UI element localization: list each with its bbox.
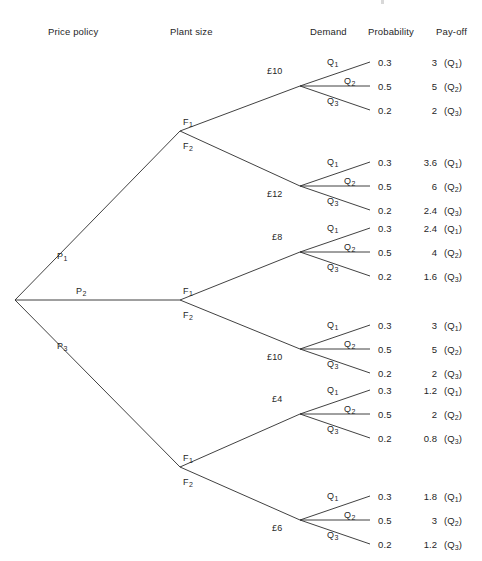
plant-branch-label-4: F2 [183, 310, 193, 321]
payoff-value: 0.8 [413, 433, 437, 444]
payoff-row-4-1: 3(Q1) [413, 320, 462, 332]
probability-value-3-2: 0.5 [378, 247, 392, 258]
plant-branch-label-2: F2 [183, 141, 193, 152]
plant-branch-line-1 [180, 86, 300, 131]
plant-branch-line-4 [180, 300, 300, 349]
probability-value-6-3: 0.2 [378, 539, 392, 550]
demand-label-4-2: Q2 [344, 339, 356, 350]
payoff-value: 2 [413, 105, 437, 116]
payoff-demand-ref: (Q2) [437, 409, 462, 421]
payoff-demand-ref: (Q3) [437, 105, 462, 117]
demand-label-6-1: Q1 [327, 491, 339, 502]
payoff-value: 5 [413, 344, 437, 355]
payoff-row-6-3: 1.2(Q3) [413, 539, 462, 551]
payoff-demand-ref: (Q2) [437, 81, 462, 93]
plant-branch-line-6 [180, 467, 300, 520]
demand-label-2-3: Q3 [327, 196, 339, 207]
payoff-demand-ref: (Q2) [437, 344, 462, 356]
payoff-row-5-3: 0.8(Q3) [413, 433, 462, 445]
demand-label-3-3: Q3 [327, 262, 339, 273]
probability-value-3-3: 0.2 [378, 271, 392, 282]
decision-tree-figure: Price policyPlant sizeDemandProbabilityP… [0, 0, 482, 561]
column-header-2: Plant size [170, 26, 213, 37]
payoff-demand-ref: (Q1) [437, 320, 462, 332]
plant-branch-label-6: F2 [183, 477, 193, 488]
price-branch-label-2: P2 [76, 286, 87, 297]
payoff-demand-ref: (Q1) [437, 157, 462, 169]
payoff-demand-ref: (Q1) [437, 491, 462, 503]
payoff-demand-ref: (Q2) [437, 515, 462, 527]
probability-value-2-1: 0.3 [378, 157, 392, 168]
plant-branch-line-2 [180, 131, 300, 186]
probability-value-2-3: 0.2 [378, 205, 392, 216]
probability-value-4-3: 0.2 [378, 368, 392, 379]
payoff-value: 1.2 [413, 539, 437, 550]
probability-value-4-2: 0.5 [378, 344, 392, 355]
payoff-row-1-2: 5(Q2) [413, 81, 462, 93]
column-header-3: Demand [310, 26, 347, 37]
plant-cost-label-6: £6 [272, 523, 282, 534]
payoff-row-6-1: 1.8(Q1) [413, 491, 462, 503]
probability-value-2-2: 0.5 [378, 181, 392, 192]
plant-cost-label-3: £8 [272, 232, 282, 243]
plant-branch-label-1: F1 [183, 117, 193, 128]
plant-cost-label-4: £10 [267, 352, 282, 363]
probability-value-1-3: 0.2 [378, 105, 392, 116]
payoff-demand-ref: (Q1) [437, 385, 462, 397]
payoff-demand-ref: (Q3) [437, 539, 462, 551]
probability-value-3-1: 0.3 [378, 223, 392, 234]
column-header-5: Pay-off [436, 26, 467, 37]
payoff-demand-ref: (Q3) [437, 433, 462, 445]
payoff-value: 2 [413, 409, 437, 420]
payoff-row-3-3: 1.6(Q3) [413, 271, 462, 283]
probability-value-1-1: 0.3 [378, 57, 392, 68]
plant-branch-line-5 [180, 414, 300, 467]
demand-label-3-1: Q1 [327, 223, 339, 234]
demand-label-1-3: Q3 [327, 96, 339, 107]
probability-value-6-1: 0.3 [378, 491, 392, 502]
payoff-row-3-2: 4(Q2) [413, 247, 462, 259]
payoff-demand-ref: (Q3) [437, 368, 462, 380]
decision-tree-lines [0, 0, 482, 561]
probability-value-6-2: 0.5 [378, 515, 392, 526]
demand-label-1-1: Q1 [327, 57, 339, 68]
payoff-demand-ref: (Q3) [437, 205, 462, 217]
payoff-value: 2.4 [413, 205, 437, 216]
payoff-row-1-1: 3(Q1) [413, 57, 462, 69]
demand-label-1-2: Q2 [344, 76, 356, 87]
demand-label-5-3: Q3 [327, 424, 339, 435]
payoff-value: 1.6 [413, 271, 437, 282]
plant-cost-label-2: £12 [267, 189, 282, 200]
payoff-value: 4 [413, 247, 437, 258]
demand-label-2-2: Q2 [344, 176, 356, 187]
payoff-value: 3 [413, 515, 437, 526]
plant-branch-label-5: F1 [183, 453, 193, 464]
payoff-demand-ref: (Q3) [437, 271, 462, 283]
probability-value-4-1: 0.3 [378, 320, 392, 331]
payoff-row-2-2: 6(Q2) [413, 181, 462, 193]
demand-label-6-2: Q2 [344, 510, 356, 521]
demand-label-4-1: Q1 [327, 320, 339, 331]
payoff-row-4-3: 2(Q3) [413, 368, 462, 380]
payoff-row-5-1: 1.2(Q1) [413, 385, 462, 397]
price-branch-line-3 [15, 300, 180, 467]
demand-label-6-3: Q3 [327, 530, 339, 541]
payoff-value: 1.2 [413, 385, 437, 396]
demand-label-2-1: Q1 [327, 157, 339, 168]
price-branch-label-1: P1 [57, 251, 68, 262]
payoff-value: 3 [413, 57, 437, 68]
column-header-1: Price policy [48, 26, 98, 37]
plant-branch-line-3 [180, 252, 300, 300]
payoff-row-5-2: 2(Q2) [413, 409, 462, 421]
payoff-demand-ref: (Q2) [437, 247, 462, 259]
payoff-value: 5 [413, 81, 437, 92]
payoff-value: 6 [413, 181, 437, 192]
price-branch-label-3: P3 [57, 341, 68, 352]
payoff-value: 2.4 [413, 223, 437, 234]
demand-label-3-2: Q2 [344, 242, 356, 253]
demand-label-4-3: Q3 [327, 359, 339, 370]
plant-cost-label-5: £4 [272, 394, 282, 405]
probability-value-1-2: 0.5 [378, 81, 392, 92]
demand-label-5-1: Q1 [327, 385, 339, 396]
payoff-row-3-1: 2.4(Q1) [413, 223, 462, 235]
